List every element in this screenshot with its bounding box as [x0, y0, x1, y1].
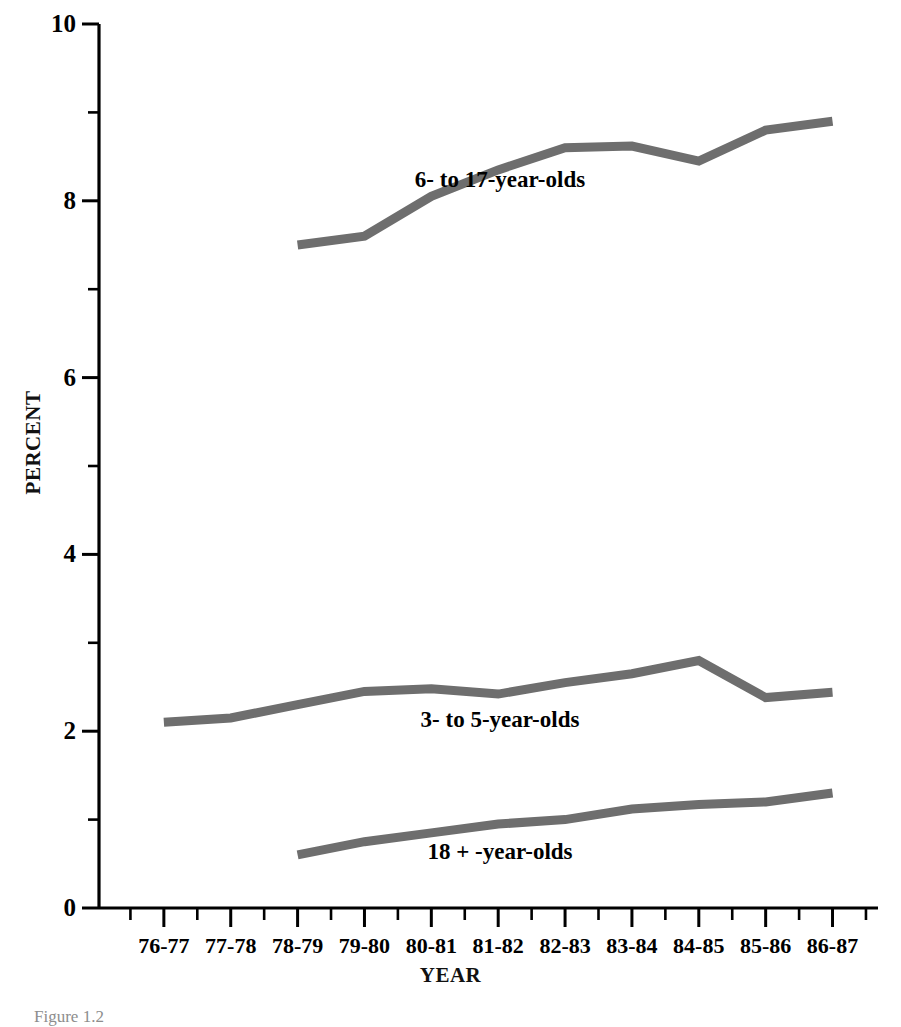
axis-lines [99, 24, 878, 908]
series-label: 6- to 17-year-olds [415, 168, 585, 191]
y-tick-label: 4 [30, 541, 76, 566]
y-tick-label: 2 [30, 718, 76, 743]
x-tick-label: 82-83 [539, 935, 590, 957]
x-tick-label: 83-84 [606, 935, 657, 957]
y-axis-ticks [82, 24, 99, 908]
x-axis-title: YEAR [0, 963, 901, 988]
x-tick-label: 85-86 [740, 935, 791, 957]
y-tick-label: 6 [30, 365, 76, 390]
y-tick-label: 0 [30, 895, 76, 920]
x-tick-label: 84-85 [673, 935, 724, 957]
series-lines [164, 121, 833, 855]
x-tick-label: 76-77 [138, 935, 189, 957]
x-tick-label: 77-78 [205, 935, 256, 957]
x-axis-ticks [130, 908, 866, 927]
figure-caption: Figure 1.2 [34, 1007, 104, 1027]
x-tick-label: 79-80 [339, 935, 390, 957]
series-label: 18 + -year-olds [427, 840, 572, 863]
x-tick-label: 86-87 [807, 935, 858, 957]
y-tick-label: 10 [30, 11, 76, 36]
series-label: 3- to 5-year-olds [421, 708, 580, 731]
y-tick-label: 8 [30, 188, 76, 213]
x-tick-label: 81-82 [473, 935, 524, 957]
x-tick-label: 80-81 [406, 935, 457, 957]
x-tick-label: 78-79 [272, 935, 323, 957]
